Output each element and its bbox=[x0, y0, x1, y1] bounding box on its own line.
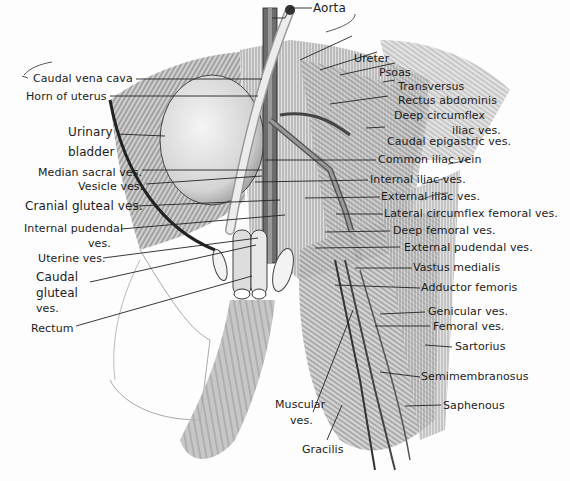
label-internal-pudendal-2: ves. bbox=[88, 237, 111, 250]
label-rectus-abdominis: Rectus abdominis bbox=[398, 94, 497, 107]
label-caudal-vena-cava: Caudal vena cava bbox=[33, 72, 133, 85]
label-caudal-gluteal-1: Caudal bbox=[36, 271, 78, 284]
label-femoral-ves: Femoral ves. bbox=[433, 320, 504, 333]
label-cranial-gluteal-ves: Cranial gluteal ves. bbox=[25, 200, 143, 213]
label-caudal-gluteal-2: gluteal bbox=[36, 287, 78, 300]
label-deep-circumflex-1: Deep circumflex bbox=[394, 109, 485, 122]
label-muscular-ves-1: Muscular bbox=[275, 398, 325, 411]
label-transversus: Transversus bbox=[398, 80, 464, 93]
label-external-iliac-ves: External iliac ves. bbox=[381, 190, 480, 203]
label-aorta: Aorta bbox=[313, 2, 346, 15]
label-vesicle-ves: Vesicle ves. bbox=[78, 180, 143, 193]
label-gracilis: Gracilis bbox=[302, 443, 344, 456]
label-caudal-epigastric-ves: Caudal epigastric ves. bbox=[387, 135, 511, 148]
label-genicular-ves: Genicular ves. bbox=[428, 305, 508, 318]
label-urinary-bladder-2: bladder bbox=[68, 146, 115, 159]
label-rectum: Rectum bbox=[31, 322, 74, 335]
label-semimembranosus: Semimembranosus bbox=[421, 370, 529, 383]
label-urinary-bladder-1: Urinary bbox=[68, 126, 113, 139]
label-median-sacral-ves: Median sacral ves. bbox=[38, 166, 142, 179]
label-adductor-femoris: Adductor femoris bbox=[421, 281, 517, 294]
label-common-iliac-vein: Common iliac vein bbox=[378, 153, 482, 166]
label-internal-pudendal-1: Internal pudendal bbox=[24, 222, 123, 235]
label-vastus-medialis: Vastus medialis bbox=[413, 261, 500, 274]
label-sartorius: Sartorius bbox=[455, 340, 505, 353]
label-horn-of-uterus: Horn of uterus bbox=[26, 90, 107, 103]
label-ureter: Ureter bbox=[354, 52, 389, 65]
label-caudal-gluteal-3: ves. bbox=[36, 302, 59, 315]
label-internal-iliac-ves: Internal iliac ves. bbox=[370, 173, 466, 186]
label-muscular-ves-2: ves. bbox=[290, 414, 313, 427]
label-deep-femoral-ves: Deep femoral ves. bbox=[393, 224, 496, 237]
label-lateral-circumflex-femoral-ves: Lateral circumflex femoral ves. bbox=[384, 207, 558, 220]
label-uterine-ves: Uterine ves. bbox=[38, 252, 106, 265]
label-external-pudendal-ves: External pudendal ves. bbox=[404, 241, 533, 254]
label-psoas: Psoas bbox=[379, 66, 411, 79]
label-saphenous: Saphenous bbox=[443, 399, 505, 412]
anatomy-figure: Aorta Caudal vena cava Horn of uterus Ur… bbox=[0, 0, 570, 481]
